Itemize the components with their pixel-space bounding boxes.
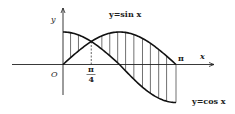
x-axis-label: x bbox=[199, 51, 205, 61]
sin-cos-area-diagram: y x O y=sin x y=cos x π π 4 bbox=[0, 0, 235, 114]
y-axis-label: y bbox=[50, 15, 56, 24]
pi-over-4-numerator: π bbox=[88, 64, 94, 74]
cos-curve-label: y=cos x bbox=[191, 96, 226, 106]
pi-over-4-denominator: 4 bbox=[89, 74, 95, 84]
sin-curve bbox=[63, 32, 176, 65]
origin-label: O bbox=[51, 70, 58, 79]
pi-tick-label: π bbox=[178, 53, 184, 63]
shaded-region-hatch bbox=[71, 32, 176, 102]
cos-curve bbox=[63, 32, 176, 103]
pi-over-4-tick-label: π 4 bbox=[87, 64, 96, 84]
sin-curve-label: y=sin x bbox=[108, 9, 141, 19]
